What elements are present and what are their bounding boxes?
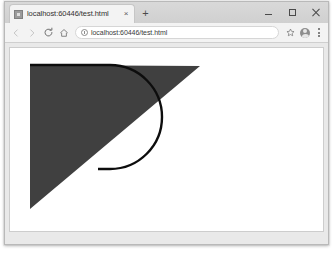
arrow-left-icon: [11, 28, 21, 38]
tab-title: localhost:60446/test.html: [27, 9, 121, 19]
home-icon: [59, 28, 69, 38]
chrome-menu-button[interactable]: [313, 26, 325, 40]
address-bar[interactable]: localhost:60446/test.html: [75, 26, 279, 39]
menu-dot: [318, 28, 320, 30]
info-circle-icon[interactable]: [81, 29, 88, 36]
bookmark-star-button[interactable]: [283, 26, 297, 40]
star-icon: [286, 28, 295, 37]
tab-close-icon[interactable]: ×: [121, 9, 131, 19]
browser-tab[interactable]: localhost:60446/test.html ×: [9, 4, 135, 23]
page-canvas: [9, 47, 324, 232]
desktop-backdrop: localhost:60446/test.html × +: [0, 0, 333, 255]
minimize-button[interactable]: [256, 2, 280, 23]
menu-dot: [318, 35, 320, 37]
close-icon: [312, 9, 320, 17]
window-controls: [256, 2, 328, 23]
address-bar-url: localhost:60446/test.html: [91, 28, 167, 37]
menu-dot: [318, 32, 320, 34]
reload-button[interactable]: [40, 25, 56, 41]
maximize-button[interactable]: [280, 2, 304, 23]
minimize-icon: [265, 14, 272, 15]
tab-favicon-icon: [14, 10, 23, 19]
triangle-shape: [30, 65, 200, 209]
new-tab-button[interactable]: +: [139, 7, 152, 20]
reload-icon: [43, 27, 54, 38]
browser-toolbar: localhost:60446/test.html: [5, 23, 328, 43]
canvas-graphic: [10, 48, 324, 232]
back-button[interactable]: [8, 25, 24, 41]
close-window-button[interactable]: [304, 2, 328, 23]
browser-window: localhost:60446/test.html × +: [4, 1, 329, 245]
arrow-right-icon: [27, 28, 37, 38]
forward-button[interactable]: [24, 25, 40, 41]
page-viewport: [5, 43, 328, 244]
maximize-icon: [289, 9, 296, 16]
home-button[interactable]: [56, 25, 72, 41]
tab-strip: localhost:60446/test.html × +: [5, 2, 328, 23]
profile-avatar[interactable]: [300, 28, 310, 38]
